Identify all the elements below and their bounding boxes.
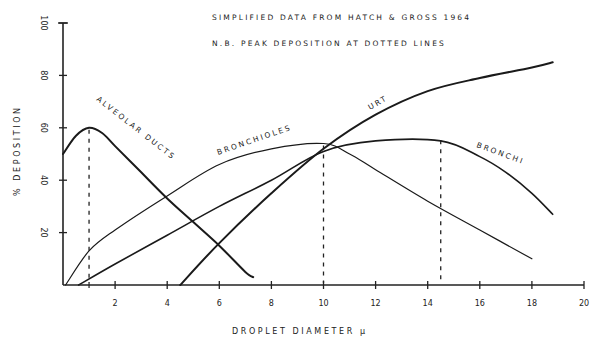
x-axis-title: DROPLET DIAMETER μ bbox=[232, 327, 368, 336]
curve-urt bbox=[180, 62, 552, 285]
curves bbox=[63, 62, 553, 285]
curve-bronchi bbox=[79, 139, 553, 285]
x-tick-label: 2 bbox=[113, 299, 118, 308]
peak-dotted-lines bbox=[89, 130, 441, 283]
x-tick-label: 14 bbox=[423, 299, 433, 308]
label-bronchioles: BRONCHIOLES bbox=[216, 123, 293, 157]
label-bronchi: BRONCHI bbox=[475, 140, 525, 166]
y-tick-label: 40 bbox=[39, 175, 48, 185]
peak-note: N.B. PEAK DEPOSITION AT DOTTED LINES bbox=[212, 39, 446, 48]
y-tick-label: 20 bbox=[39, 228, 48, 238]
y-tick-label: 80 bbox=[39, 70, 48, 80]
y-axis-title: % DEPOSITION bbox=[13, 105, 22, 196]
x-tick-label: 6 bbox=[217, 299, 222, 308]
label-alveolar-ducts: ALVEOLAR DUCTS bbox=[95, 94, 178, 161]
x-tick-label: 16 bbox=[475, 299, 485, 308]
y-tick-label: 60 bbox=[39, 123, 48, 133]
x-tick-label: 10 bbox=[318, 299, 328, 308]
y-tick-label: 100 bbox=[39, 15, 48, 30]
x-tick-label: 12 bbox=[371, 299, 381, 308]
x-tick-label: 20 bbox=[579, 299, 589, 308]
x-tick-label: 18 bbox=[527, 299, 537, 308]
axes: 246810121416182020406080100 bbox=[39, 15, 589, 308]
x-tick-label: 4 bbox=[165, 299, 170, 308]
deposition-chart: 246810121416182020406080100 SIMPLIFIED D… bbox=[0, 0, 597, 344]
x-tick-label: 8 bbox=[269, 299, 274, 308]
source-note: SIMPLIFIED DATA FROM HATCH & GROSS 1964 bbox=[212, 13, 471, 22]
